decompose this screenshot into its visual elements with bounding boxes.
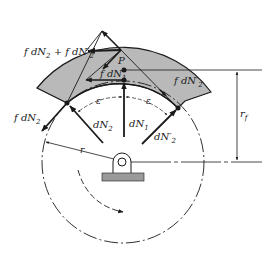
- f-dN2-label: f dN2: [13, 112, 41, 126]
- r-label: r: [80, 145, 85, 155]
- epsilon-left-label: ε: [96, 96, 101, 106]
- contact-point-left: [65, 101, 70, 106]
- epsilon-right-label: ε: [146, 96, 151, 106]
- dN1-label: dN1: [129, 118, 149, 132]
- P-label: P: [117, 55, 125, 66]
- rf-label: rf: [240, 108, 249, 122]
- dN2-prime-label: dN′2: [154, 131, 176, 145]
- pivot-base: [102, 173, 144, 181]
- f-dN2-arrow: [42, 103, 67, 131]
- dN2-label: dN2: [93, 119, 113, 133]
- point-P: [122, 68, 127, 73]
- contact-point-right: [176, 106, 181, 111]
- brake-shoe-diagram: rf r ε ε f dN2 + f dN′2 P f dN1: [0, 0, 275, 254]
